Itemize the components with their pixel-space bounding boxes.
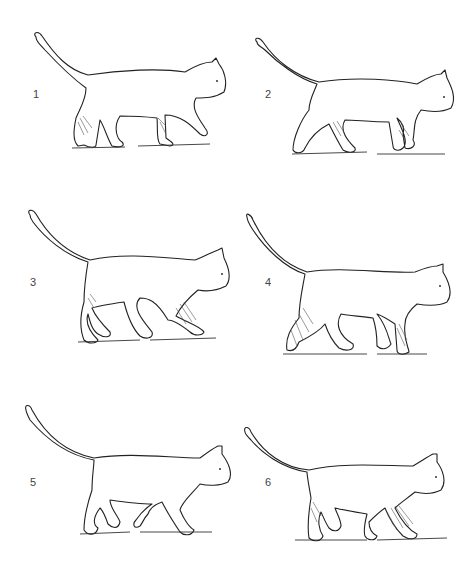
cat-drawing-2 — [237, 0, 474, 170]
gait-panel-6: 6 — [237, 390, 474, 573]
cat-drawing-5 — [0, 390, 237, 573]
cat-drawing-1 — [0, 0, 237, 170]
gait-panel-1: 1 — [0, 0, 237, 170]
gait-panel-5: 5 — [0, 390, 237, 573]
gait-panel-4: 4 — [237, 190, 474, 370]
gait-panel-3: 3 — [0, 190, 237, 370]
cat-drawing-4 — [237, 190, 474, 370]
gait-panel-2: 2 — [237, 0, 474, 170]
cat-drawing-3 — [0, 190, 237, 370]
cat-drawing-6 — [237, 390, 474, 573]
